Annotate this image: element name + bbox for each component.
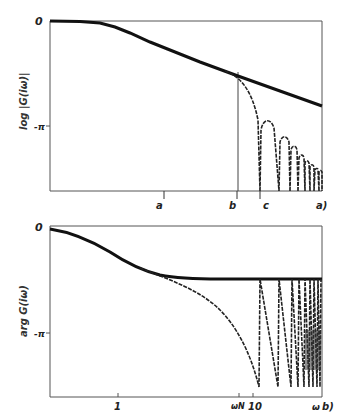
phase-continuous-curve <box>50 229 322 279</box>
marker-a: a <box>156 200 163 211</box>
bottom-ylabel: arg G(iω) <box>18 285 29 337</box>
panel-label-a: a) <box>316 200 327 211</box>
panel-label-b: b) <box>322 401 334 412</box>
xtick-1: 1 <box>114 401 121 412</box>
phase-sampled-curve <box>140 268 321 387</box>
xlabel-omega: ω <box>312 402 320 412</box>
magnitude-plot <box>46 21 322 199</box>
bode-figure: 0 -π log |G(iω)| a b c a) 0 -π arg G(iω)… <box>0 0 353 413</box>
magnitude-continuous-curve <box>50 21 322 106</box>
bottom-ytick-zero: 0 <box>35 221 43 234</box>
phase-plot <box>46 226 322 397</box>
marker-c: c <box>263 200 269 211</box>
top-ylabel: log |G(iω)| <box>18 72 30 130</box>
marker-b: b <box>229 200 236 211</box>
xtick-10: 10 <box>248 401 262 412</box>
top-ytick-minus-pi: -π <box>34 122 46 132</box>
bottom-ytick-minus-pi: -π <box>34 329 46 339</box>
xtick-omega-n: ωN <box>231 402 245 411</box>
top-ytick-zero: 0 <box>35 15 43 28</box>
